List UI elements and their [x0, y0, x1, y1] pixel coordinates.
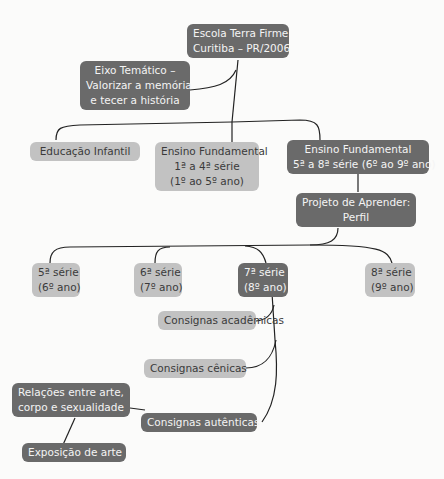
relations-line1: Relações entre arte, [18, 385, 124, 400]
grade-8-line2: (9º ano) [371, 280, 409, 295]
grade-6-line2: (7º ano) [140, 280, 176, 295]
theme-line1: Eixo Temático – [86, 63, 184, 78]
root-node[interactable]: Escola Terra Firme Curitiba – PR/2006 [187, 24, 289, 58]
infantil-label: Educação Infantil [36, 144, 134, 159]
root-line2: Curitiba – PR/2006 [193, 41, 283, 56]
grade-5-line1: 5ª série [38, 265, 74, 280]
grade-8-line1: 8ª série [371, 265, 409, 280]
consignas-cenicas-label: Consignas cênicas [150, 361, 240, 376]
relations-line2: corpo e sexualidade [18, 400, 124, 415]
theme-line2: Valorizar a memória [86, 78, 184, 93]
grade-node-7[interactable]: 7ª série (8º ano) [238, 263, 288, 297]
infantil-node[interactable]: Educação Infantil [30, 142, 140, 161]
fund2-node[interactable]: Ensino Fundamental 5ª a 8ª série (6º ao … [287, 140, 429, 174]
fund2-line1: Ensino Fundamental [293, 142, 423, 157]
fund2-line2: 5ª a 8ª série (6º ao 9º ano) [293, 157, 423, 172]
exhibition-node[interactable]: Exposição de arte [22, 443, 126, 462]
grade-node-5[interactable]: 5ª série (6º ano) [32, 263, 80, 297]
project-line1: Projeto de Aprender: [302, 195, 410, 210]
consignas-academicas-label: Consignas acadêmicas [164, 313, 250, 328]
exhibition-label: Exposição de arte [28, 445, 120, 460]
grade-7-line2: (8º ano) [244, 280, 282, 295]
consignas-academicas-node[interactable]: Consignas acadêmicas [158, 311, 256, 330]
consignas-autenticas-label: Consignas autênticas [147, 415, 251, 430]
consignas-cenicas-node[interactable]: Consignas cênicas [144, 359, 246, 378]
grade-7-line1: 7ª série [244, 265, 282, 280]
grade-node-6[interactable]: 6ª série (7º ano) [134, 263, 182, 297]
fund1-node[interactable]: Ensino Fundamental 1ª a 4ª série (1º ao … [155, 142, 259, 191]
project-node[interactable]: Projeto de Aprender: Perfil [296, 193, 416, 227]
fund1-line2: 1ª a 4ª série [161, 159, 253, 174]
root-line1: Escola Terra Firme [193, 26, 283, 41]
consignas-autenticas-node[interactable]: Consignas autênticas [141, 413, 257, 432]
relations-node[interactable]: Relações entre arte, corpo e sexualidade [12, 383, 130, 417]
fund1-line3: (1º ao 5º ano) [161, 174, 253, 189]
grade-6-line1: 6ª série [140, 265, 176, 280]
project-line2: Perfil [302, 210, 410, 225]
theme-line3: e tecer a história [86, 93, 184, 108]
theme-node[interactable]: Eixo Temático – Valorizar a memória e te… [80, 61, 190, 110]
fund1-line1: Ensino Fundamental [161, 144, 253, 159]
grade-node-8[interactable]: 8ª série (9º ano) [365, 263, 415, 297]
grade-5-line2: (6º ano) [38, 280, 74, 295]
